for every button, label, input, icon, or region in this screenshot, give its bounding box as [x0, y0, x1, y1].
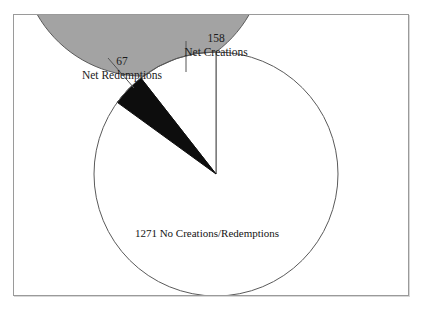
label-no-creations-redemptions: 1271 No Creations/Redemptions [102, 227, 312, 241]
label-net-redemptions-name: Net Redemptions [54, 69, 190, 83]
label-net-creations-value: 158 [146, 32, 286, 46]
chart-page: 158 Net Creations 67 Net Redemptions 127… [0, 0, 423, 311]
label-net-redemptions-value: 67 [54, 55, 190, 69]
label-net-redemptions: 67 Net Redemptions [54, 55, 190, 82]
figure-frame: 158 Net Creations 67 Net Redemptions 127… [13, 14, 409, 296]
